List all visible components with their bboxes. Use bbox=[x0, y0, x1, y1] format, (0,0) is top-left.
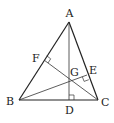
label-G: G bbox=[70, 66, 79, 79]
right-angle-mark-D bbox=[69, 95, 74, 100]
triangle-diagram: A B C D E F G bbox=[0, 0, 114, 123]
label-E: E bbox=[89, 64, 97, 77]
label-A: A bbox=[65, 7, 75, 20]
label-C: C bbox=[101, 96, 109, 109]
segment-AB bbox=[19, 22, 69, 100]
segment-AC bbox=[69, 22, 98, 100]
label-B: B bbox=[6, 95, 14, 108]
right-angle-mark-E bbox=[82, 77, 89, 82]
label-D: D bbox=[65, 104, 74, 117]
label-F: F bbox=[32, 52, 40, 65]
